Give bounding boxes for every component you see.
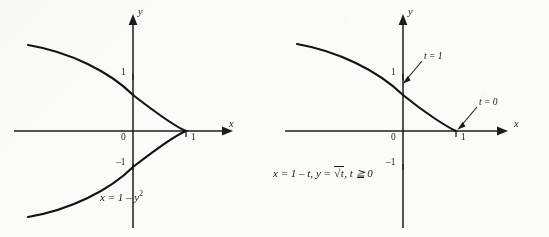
right-plot-graphics: [275, 0, 549, 237]
figure-canvas: x y 0 1 –1 1 x = 1 – y2: [0, 0, 549, 237]
square-root-symbol: √t: [334, 166, 344, 179]
annotation-t-equals-one: t = 1: [424, 52, 443, 62]
y-tick-label-one: 1: [391, 68, 396, 78]
right-caption-x-part: x = 1 – t,: [273, 167, 313, 179]
annotation-t-equals-zero: t = 0: [479, 98, 498, 108]
y-axis-label: y: [138, 7, 143, 18]
left-caption-text: x = 1 – y: [100, 191, 139, 203]
x-axis-label: x: [229, 119, 234, 130]
y-axis-arrowhead: [399, 14, 408, 25]
y-tick-label-one: 1: [121, 68, 126, 78]
x-tick-label-one: 1: [191, 133, 196, 143]
left-caption-exponent: 2: [139, 189, 143, 198]
y-tick-label-negative-one: –1: [386, 158, 396, 168]
x-tick-label-one: 1: [461, 133, 466, 143]
y-axis-arrowhead: [129, 14, 138, 25]
right-caption-domain-part: , t ≧ 0: [344, 167, 373, 179]
right-caption-y-part: y =: [316, 167, 331, 179]
panel-left-parabola: x y 0 1 –1 1 x = 1 – y2: [0, 0, 275, 237]
left-caption: x = 1 – y2: [100, 190, 143, 203]
right-caption: x = 1 – t, y = √t, t ≧ 0: [273, 168, 373, 179]
panel-right-parametric: x y 0 1 –1 1 t = 1 t = 0 x = 1 – t, y = …: [275, 0, 549, 237]
origin-label: 0: [391, 133, 396, 143]
y-tick-label-negative-one: –1: [116, 158, 126, 168]
y-axis-label: y: [408, 7, 413, 18]
x-axis-label: x: [514, 119, 519, 130]
x-axis-arrowhead: [497, 127, 508, 136]
origin-label: 0: [121, 133, 126, 143]
